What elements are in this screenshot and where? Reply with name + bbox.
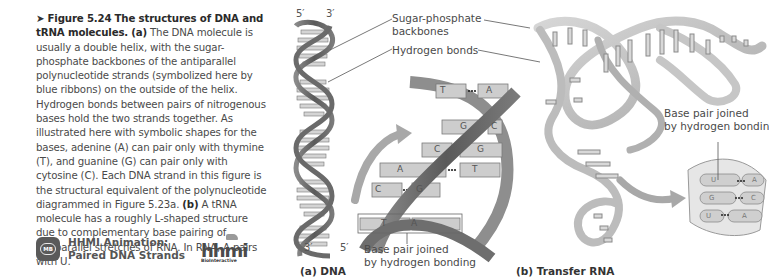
- base-letter: T: [472, 163, 478, 176]
- base-letter: G: [416, 183, 423, 196]
- figure-illustrations: [0, 0, 769, 280]
- dna-enlarged-helix: [358, 82, 516, 258]
- zoom-arrow-head-icon: [396, 124, 412, 144]
- base-letter: G: [477, 143, 484, 156]
- trna-zoom-arrow-head-icon: [670, 190, 686, 208]
- base-letter: C: [491, 120, 497, 133]
- base-letter: T: [381, 217, 387, 230]
- strand-end-bottom-right: 5′: [340, 242, 349, 253]
- inset-base-letter: U: [711, 174, 716, 187]
- label-sugar-phosphate-backbones: Sugar-phosphate backbones: [392, 12, 481, 37]
- base-letter: T: [440, 84, 446, 97]
- label-line: backbones: [392, 25, 481, 38]
- label-hydrogen-bonds: Hydrogen bonds: [392, 44, 478, 57]
- panel-label-trna: (b) Transfer RNA: [516, 265, 614, 277]
- dna-base-pair-callout: Base pair joined by hydrogen bonding: [364, 243, 476, 268]
- callout-line: Base pair joined: [664, 107, 769, 120]
- trna-inset: [688, 142, 766, 236]
- inset-base-letter: U: [706, 210, 711, 223]
- panel-label-dna: (a) DNA: [300, 265, 346, 277]
- inset-base-letter: G: [709, 192, 714, 205]
- trna-zoom-arrow-icon: [620, 180, 676, 200]
- base-letter: G: [460, 120, 467, 133]
- callout-line: by hydrogen bonding: [664, 120, 769, 133]
- callout-line: Base pair joined: [364, 243, 476, 256]
- strand-end-bottom-left: 3′: [304, 242, 313, 253]
- inset-base-letter: A: [752, 174, 757, 187]
- inset-base-letter: C: [751, 192, 756, 205]
- trna-base-pair-callout: Base pair joined by hydrogen bonding: [664, 107, 769, 132]
- base-letter: A: [411, 217, 417, 230]
- strand-end-top-left: 5′: [296, 8, 305, 19]
- base-letter: C: [375, 183, 381, 196]
- label-line: Sugar-phosphate: [392, 12, 481, 25]
- callout-line: by hydrogen bonding: [364, 256, 476, 269]
- strand-end-top-right: 3′: [326, 8, 335, 19]
- base-letter: A: [486, 84, 492, 97]
- dna-double-helix: [296, 22, 333, 256]
- inset-base-letter: A: [742, 210, 747, 223]
- base-letter: C: [434, 143, 440, 156]
- base-letter: A: [397, 163, 403, 176]
